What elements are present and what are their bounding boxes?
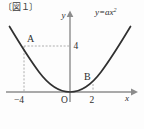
curve-equation-exponent: 2 — [114, 7, 117, 13]
point-label-a: A — [27, 33, 35, 44]
figure-container: 〔図１〕 A B 4 −4 2 O y x y=ax2 — [0, 0, 144, 129]
coordinate-plot: A B 4 −4 2 O y x y=ax2 — [0, 0, 144, 129]
x-tick-label-negative-4: −4 — [14, 95, 24, 105]
x-tick-label-2: 2 — [90, 95, 95, 105]
curve-equation-base: y=ax — [94, 7, 114, 17]
point-label-b: B — [84, 71, 91, 82]
y-axis-label: y — [61, 10, 66, 20]
x-axis-arrow-icon — [131, 89, 138, 96]
x-axis-label: x — [124, 93, 129, 103]
origin-label: O — [61, 95, 68, 105]
y-axis-arrow-icon — [67, 11, 74, 18]
curve-equation-label: y=ax2 — [94, 7, 117, 18]
y-tick-label-4: 4 — [74, 41, 79, 51]
